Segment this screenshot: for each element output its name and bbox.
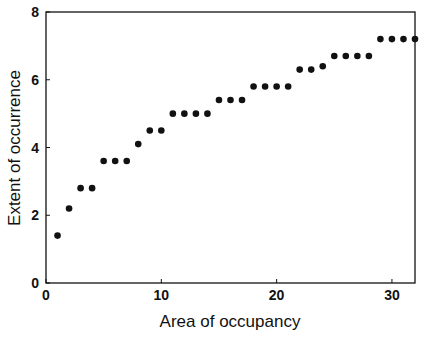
x-tick-label: 0 bbox=[42, 287, 50, 303]
data-point bbox=[412, 36, 419, 43]
data-point bbox=[89, 185, 96, 192]
scatter-chart: 0102030 02468 Area of occupancy Extent o… bbox=[0, 0, 421, 337]
data-point bbox=[331, 53, 338, 60]
x-tick-label: 30 bbox=[384, 287, 400, 303]
y-tick-label: 2 bbox=[31, 207, 39, 223]
data-point bbox=[77, 185, 84, 192]
data-point bbox=[273, 83, 280, 90]
x-tick-label: 10 bbox=[154, 287, 170, 303]
data-point bbox=[66, 205, 73, 212]
plot-frame bbox=[46, 12, 415, 283]
data-point bbox=[354, 53, 361, 60]
data-point bbox=[54, 232, 61, 239]
data-point bbox=[135, 141, 142, 148]
data-point bbox=[319, 63, 326, 70]
data-point bbox=[400, 36, 407, 43]
data-point bbox=[158, 127, 165, 134]
data-point bbox=[112, 158, 119, 165]
data-point bbox=[181, 110, 188, 117]
data-point bbox=[100, 158, 107, 165]
data-points bbox=[54, 36, 418, 239]
y-tick-label: 4 bbox=[31, 140, 39, 156]
data-point bbox=[343, 53, 350, 60]
data-point bbox=[366, 53, 373, 60]
data-point bbox=[170, 110, 177, 117]
data-point bbox=[227, 97, 234, 104]
data-point bbox=[250, 83, 257, 90]
data-point bbox=[239, 97, 246, 104]
data-point bbox=[389, 36, 396, 43]
y-tick-label: 6 bbox=[31, 72, 39, 88]
y-tick-label: 0 bbox=[31, 275, 39, 291]
y-axis-label: Extent of occurrence bbox=[5, 70, 24, 226]
data-point bbox=[204, 110, 211, 117]
x-axis-label: Area of occupancy bbox=[160, 312, 301, 331]
data-point bbox=[193, 110, 200, 117]
data-point bbox=[308, 66, 315, 73]
y-axis: 02468 bbox=[31, 4, 50, 291]
data-point bbox=[262, 83, 269, 90]
data-point bbox=[377, 36, 384, 43]
data-point bbox=[216, 97, 223, 104]
data-point bbox=[285, 83, 292, 90]
data-point bbox=[296, 66, 303, 73]
data-point bbox=[123, 158, 130, 165]
x-tick-label: 20 bbox=[269, 287, 285, 303]
data-point bbox=[146, 127, 153, 134]
y-tick-label: 8 bbox=[31, 4, 39, 20]
